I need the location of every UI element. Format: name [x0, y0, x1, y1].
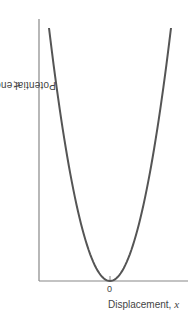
x-tick-label-zero: 0 — [107, 284, 112, 294]
x-axis-label: Displacement, x — [108, 298, 179, 310]
y-axis-label: Potential energy, V — [2, 30, 32, 140]
potential-energy-curve — [49, 28, 171, 281]
